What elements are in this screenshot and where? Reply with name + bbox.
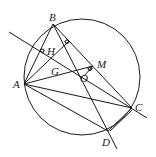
right-angle-mark xyxy=(40,49,44,53)
segment-cd xyxy=(108,108,132,131)
line-through-o xyxy=(9,32,147,118)
geometry-diagram: A B C D M O G H xyxy=(0,0,156,157)
label-a: A xyxy=(12,78,20,90)
label-b: B xyxy=(49,11,56,23)
label-h: H xyxy=(46,45,56,57)
label-c: C xyxy=(135,101,143,113)
label-g: G xyxy=(51,65,59,77)
segment-ac xyxy=(24,84,132,108)
segment-a-perp xyxy=(24,42,68,84)
label-d: D xyxy=(101,136,110,148)
label-m: M xyxy=(96,58,107,70)
segment-cd-double xyxy=(110,110,132,131)
label-o: O xyxy=(80,72,88,84)
